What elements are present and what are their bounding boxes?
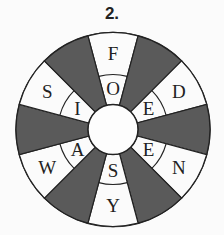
inner-letter: E: [143, 139, 155, 160]
inner-letter: I: [74, 98, 80, 119]
inner-letter: A: [71, 139, 85, 160]
inner-letter: O: [106, 78, 120, 99]
letter-wheel: FODENEYSWASI: [0, 0, 224, 235]
outer-letter: S: [42, 81, 53, 102]
outer-letter: D: [172, 81, 186, 102]
inner-letter: S: [108, 160, 119, 181]
outer-letter: Y: [106, 195, 120, 216]
outer-letter: F: [108, 43, 119, 64]
outer-letter: W: [38, 157, 56, 178]
outer-letter: N: [172, 157, 186, 178]
inner-letter: E: [143, 98, 155, 119]
center-hub: [88, 105, 138, 155]
